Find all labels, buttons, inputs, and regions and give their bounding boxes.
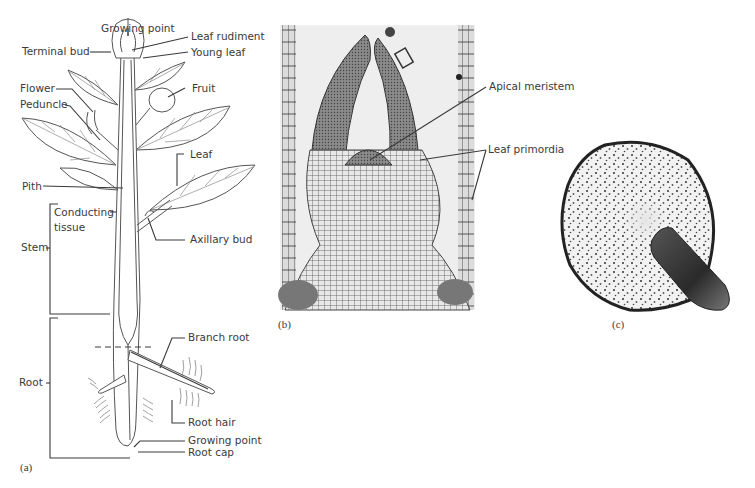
label-flower: Flower [20, 82, 55, 94]
label-root: Root [19, 376, 43, 388]
label-conducting-tissue-line2: tissue [54, 221, 85, 233]
label-growing-point-root: Growing point [188, 434, 262, 446]
label-leaf: Leaf [190, 148, 213, 160]
label-pith: Pith [22, 180, 42, 192]
label-axillary-bud: Axillary bud [190, 233, 252, 245]
botany-figure: Growing point Leaf rudiment Terminal bud… [0, 0, 755, 488]
panel-b-micrograph: Apical meristem Leaf primordia (b) [278, 25, 574, 331]
label-apical-meristem: Apical meristem [489, 80, 574, 92]
label-conducting-tissue-line1: Conducting [54, 206, 114, 218]
panel-c-micrograph: (c) [562, 142, 729, 331]
label-terminal-bud: Terminal bud [21, 45, 90, 57]
panel-a-plant-diagram: Growing point Leaf rudiment Terminal bud… [19, 18, 265, 474]
leaf-shape [136, 106, 230, 150]
leaf-shape [135, 62, 185, 90]
caption-c: (c) [612, 318, 625, 331]
label-fruit: Fruit [192, 82, 215, 94]
label-young-leaf: Young leaf [190, 46, 246, 58]
label-leaf-rudiment: Leaf rudiment [191, 30, 265, 42]
label-root-hair: Root hair [188, 416, 236, 428]
leaf-shape [68, 70, 118, 105]
caption-a: (a) [20, 461, 33, 474]
label-peduncle: Peduncle [20, 98, 68, 110]
label-stem: Stem [21, 241, 48, 253]
leaf-shape [22, 118, 116, 165]
label-leaf-primordia: Leaf primordia [488, 143, 564, 155]
label-growing-point-top: Growing point [101, 22, 175, 34]
caption-b: (b) [278, 318, 291, 331]
label-branch-root: Branch root [188, 331, 249, 343]
label-root-cap: Root cap [188, 446, 234, 458]
